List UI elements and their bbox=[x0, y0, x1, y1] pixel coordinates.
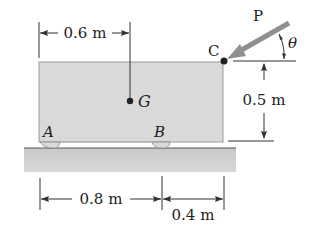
arrowhead-right-down bbox=[261, 131, 267, 139]
diagram-canvas: 0.6 m G A B C P θ 0.5 m 0.8 m 0.4 m bbox=[0, 0, 315, 228]
theta-arc-arrow-bottom bbox=[282, 53, 286, 59]
arrowhead-bottom-mid-left bbox=[153, 196, 161, 202]
label-g: G bbox=[138, 92, 151, 111]
foot-a bbox=[40, 142, 60, 148]
arrowhead-top-left bbox=[40, 30, 48, 36]
label-b: B bbox=[153, 123, 165, 141]
label-p: P bbox=[253, 7, 263, 25]
arrowhead-bottom-right bbox=[215, 196, 223, 202]
arrowhead-top-right bbox=[121, 30, 129, 36]
arrowhead-bottom-mid-right bbox=[163, 196, 171, 202]
arrowhead-right-up bbox=[261, 63, 267, 71]
dim-right-label: 0.5 m bbox=[243, 91, 286, 109]
arrowhead-bottom-left bbox=[41, 196, 49, 202]
label-theta: θ bbox=[288, 34, 297, 52]
label-a: A bbox=[41, 123, 54, 141]
dim-top-label: 0.6 m bbox=[64, 24, 107, 42]
foot-b bbox=[152, 142, 170, 148]
c-point bbox=[221, 58, 228, 65]
label-c: C bbox=[208, 42, 219, 60]
ground-surface bbox=[24, 148, 236, 172]
dim-bottom-right-label: 0.4 m bbox=[172, 206, 215, 224]
dim-bottom-left-label: 0.8 m bbox=[80, 190, 123, 208]
g-point bbox=[127, 98, 133, 104]
theta-arc-arrow-top bbox=[279, 34, 283, 40]
